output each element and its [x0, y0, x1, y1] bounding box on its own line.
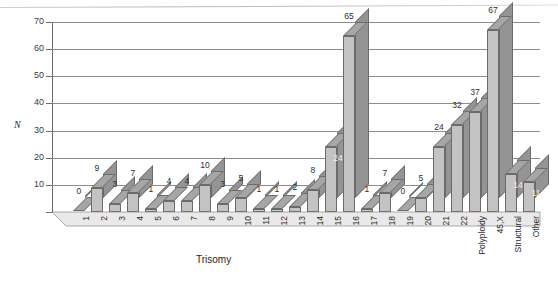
x-tick-label-15: 15: [334, 216, 343, 225]
x-tick-label-Polyploidy: Polyploidy: [478, 216, 487, 255]
bar-9: [217, 204, 228, 212]
bar-value-label: 10: [199, 161, 210, 170]
bar-front-face: [163, 201, 174, 212]
bar-value-label: 3: [109, 180, 120, 189]
bar-2: [91, 188, 102, 212]
bar-front-face: [379, 193, 390, 212]
bar-22: [451, 125, 462, 212]
bar-front-face: [343, 36, 354, 212]
bar-value-label: 2: [289, 183, 300, 192]
bar-front-face: [451, 125, 462, 212]
x-tick-label-7: 7: [190, 216, 199, 221]
y-tick-40: [46, 103, 52, 104]
bar-value-label: 1: [361, 185, 372, 194]
x-tick-label-2: 2: [100, 216, 109, 221]
x-tick-label-13: 13: [298, 216, 307, 225]
x-tick-label-1: 1: [82, 216, 91, 221]
bar-6: [163, 201, 174, 212]
bar-Polyploidy: [469, 112, 480, 212]
bar-value-label: 4: [181, 177, 192, 186]
bar-value-label: 1: [253, 185, 264, 194]
bar-value-label: 1: [271, 185, 282, 194]
x-tick-label-19: 19: [406, 216, 415, 225]
bar-16: [343, 36, 354, 212]
x-tick-label-Structural: Structural: [514, 216, 523, 252]
bar-front-face: [469, 112, 480, 212]
y-axis-tick-labels: 10203040506070: [12, 0, 44, 297]
x-tick-label-6: 6: [172, 216, 181, 221]
bar-front-face: [199, 185, 210, 212]
x-tick-label-9: 9: [226, 216, 235, 221]
bar-value-label: 7: [127, 169, 138, 178]
bar-21: [433, 147, 444, 212]
y-tick-0: [46, 212, 52, 213]
bar-front-face: [109, 204, 120, 212]
y-tick-70: [46, 22, 52, 23]
trisomy-distribution-bar-chart: 10203040506070 N 09371441035112824651705…: [0, 0, 558, 297]
bar-series: 09371441035112824651705243237671411: [52, 22, 540, 212]
bar-value-label: 4: [163, 177, 174, 186]
y-tick-30: [46, 131, 52, 132]
bar-front-face: [181, 201, 192, 212]
x-axis-tick-labels: 12345678910111213141516171819202122Polyp…: [52, 214, 552, 294]
x-tick-label-5: 5: [154, 216, 163, 221]
bar-value-label: 7: [379, 169, 390, 178]
x-tick-label-14: 14: [316, 216, 325, 225]
y-tick-label-60: 60: [18, 44, 44, 53]
bar-side-face: [355, 8, 369, 198]
y-tick-label-20: 20: [18, 153, 44, 162]
x-tick-label-4: 4: [136, 216, 145, 221]
x-tick-label-17: 17: [370, 216, 379, 225]
bar-value-label: 0: [73, 187, 84, 196]
y-tick-label-30: 30: [18, 126, 44, 135]
y-tick-label-10: 10: [18, 180, 44, 189]
x-tick-label-21: 21: [442, 216, 451, 225]
bar-value-label: 24: [433, 123, 444, 132]
bar-value-label: 67: [487, 6, 498, 15]
x-tick-label-3: 3: [118, 216, 127, 221]
bar-value-label: 5: [415, 174, 426, 183]
bar-front-face: [415, 198, 426, 212]
bar-front-face: [307, 190, 318, 212]
bar-front-face: [91, 188, 102, 212]
bar-value-label: 3: [217, 180, 228, 189]
x-tick-label-16: 16: [352, 216, 361, 225]
y-axis-title: N: [14, 119, 21, 130]
bar-20: [415, 198, 426, 212]
bar-14: [307, 190, 318, 212]
bar-8: [199, 185, 210, 212]
bar-3: [109, 204, 120, 212]
bar-4: [127, 193, 138, 212]
bar-value-label: 9: [91, 164, 102, 173]
bar-value-label: 0: [397, 187, 408, 196]
bar-value-label: 5: [235, 174, 246, 183]
bar-value-label: 11: [523, 189, 548, 198]
x-tick-label-11: 11: [262, 216, 271, 225]
bar-front-face: [127, 193, 138, 212]
bar-value-label: 1: [145, 185, 156, 194]
bar-value-label: 65: [343, 12, 354, 21]
bar-45X: [487, 30, 498, 212]
y-tick-label-70: 70: [18, 17, 44, 26]
x-tick-label-22: 22: [460, 216, 469, 225]
x-tick-label-18: 18: [388, 216, 397, 225]
bar-value-label: 37: [469, 88, 480, 97]
bar-18: [379, 193, 390, 212]
plot-area: 09371441035112824651705243237671411: [52, 22, 540, 212]
bar-value-label: 32: [451, 101, 462, 110]
y-tick-label-50: 50: [18, 71, 44, 80]
bar-front-face: [235, 198, 246, 212]
bar-front-face: [433, 147, 444, 212]
x-tick-label-10: 10: [244, 216, 253, 225]
bar-front-face: [217, 204, 228, 212]
x-tick-label-12: 12: [280, 216, 289, 225]
bar-10: [235, 198, 246, 212]
y-tick-20: [46, 158, 52, 159]
bar-value-label: 8: [307, 166, 318, 175]
x-tick-label-Other: Other: [532, 216, 541, 237]
bar-front-face: [487, 30, 498, 212]
y-tick-50: [46, 76, 52, 77]
x-tick-label-20: 20: [424, 216, 433, 225]
y-tick-label-40: 40: [18, 98, 44, 107]
x-tick-label-8: 8: [208, 216, 217, 221]
